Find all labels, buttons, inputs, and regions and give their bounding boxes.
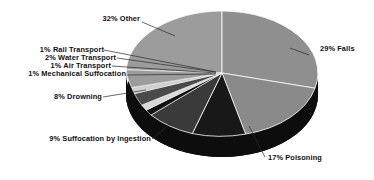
pie-chart: 32% Other 29% Falls 1% Rail Transport 2%… xyxy=(0,0,374,180)
callout-label-poisoning: 17% Poisoning xyxy=(268,153,322,162)
callout-label-mechanical-suffocation: 1% Mechanical Suffocation xyxy=(0,69,126,78)
callout-label-other: 32% Other xyxy=(24,14,140,23)
pie-slices xyxy=(126,11,318,136)
callout-label-suffocation-by-ingestion: 9% Suffocation by Ingestion xyxy=(0,134,151,143)
callout-label-falls: 29% Falls xyxy=(320,44,355,53)
callout-label-drowning: 8% Drowning xyxy=(0,92,102,101)
